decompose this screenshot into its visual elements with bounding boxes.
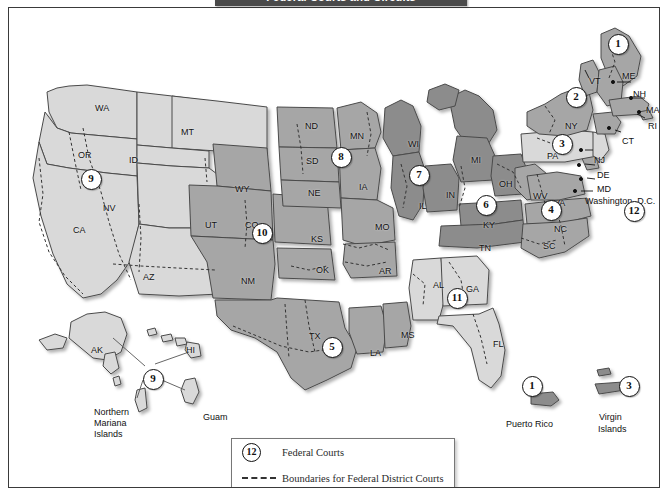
state-label-mi: MI [471, 155, 481, 165]
state-label-hi: HI [186, 345, 195, 355]
circuit-8: 8 [331, 147, 352, 168]
region-alaska [39, 312, 127, 374]
circuit-3: 3 [552, 134, 573, 155]
map-legend: 12 Federal Courts Boundaries for Federal… [231, 438, 455, 488]
label-puerto-rico: Puerto Rico [506, 419, 553, 429]
page-title: Federal Courts and Circuits [215, 0, 467, 6]
legend-circle-icon: 12 [242, 443, 261, 462]
dashed-line-icon [242, 477, 276, 479]
circuit-3-virgin-islands: 3 [619, 376, 640, 397]
state-label-nc: NC [554, 224, 567, 234]
state-label-la: LA [370, 348, 381, 358]
circuit-1: 1 [608, 34, 629, 55]
circuit-12-dc: 12 [624, 201, 645, 222]
state-label-mt: MT [181, 127, 194, 137]
state-label-mo: MO [375, 222, 390, 232]
state-label-ak: AK [91, 345, 103, 355]
circuit-7: 7 [409, 165, 430, 186]
circuit-4: 4 [541, 200, 562, 221]
state-label-nv: NV [103, 203, 116, 213]
state-label-ar: AR [379, 266, 392, 276]
map-frame: 123456789101112913 WAORIDMTNVCAAZUTCOWYN… [8, 7, 660, 488]
state-label-wv: WV [533, 191, 548, 201]
circuit-6: 6 [476, 195, 497, 216]
circuit-2: 2 [566, 87, 587, 108]
state-label-fl: FL [493, 339, 504, 349]
state-label-ms: MS [401, 330, 415, 340]
state-label-sc: SC [543, 241, 556, 251]
state-label-oh: OH [499, 179, 513, 189]
label-virgin: Virgin [599, 412, 622, 422]
state-label-ks: KS [311, 234, 323, 244]
legend-row-federal-courts: 12 Federal Courts [232, 439, 454, 465]
legend-circuit-symbol: 12 [242, 443, 282, 462]
state-label-ma: MA [646, 105, 660, 115]
circuit-9-mainland: 9 [81, 169, 102, 190]
legend-dash-symbol [242, 477, 282, 479]
state-label-de: DE [597, 170, 610, 180]
region-circuit-11 [409, 256, 505, 388]
state-label-md: MD [597, 184, 611, 194]
state-label-ri: RI [648, 121, 657, 131]
state-label-in: IN [446, 190, 455, 200]
state-label-nh: NH [633, 89, 646, 99]
state-label-mn: MN [350, 131, 364, 141]
state-label-id: ID [129, 155, 138, 165]
state-label-ia: IA [359, 182, 368, 192]
state-label-me: ME [622, 71, 636, 81]
state-label-wy: WY [235, 184, 250, 194]
state-label-ky: KY [483, 220, 495, 230]
circuit-1-puerto-rico: 1 [522, 376, 543, 397]
label-northern-mariana-islands: Northern Mariana Islands [94, 407, 156, 440]
state-label-il: IL [419, 201, 427, 211]
state-label-al: AL [433, 280, 444, 290]
state-label-nj: NJ [594, 155, 605, 165]
label-guam: Guam [203, 412, 228, 422]
circuit-10: 10 [252, 223, 273, 244]
legend-federal-courts-label: Federal Courts [282, 447, 344, 458]
state-label-ok: OK [316, 265, 329, 275]
legend-boundaries-label: Boundaries for Federal District Courts [282, 473, 444, 484]
state-label-az: AZ [143, 272, 155, 282]
state-label-wi: WI [408, 139, 419, 149]
label-washington-dc: Washington, D.C. [585, 196, 655, 206]
state-label-ga: GA [466, 284, 479, 294]
state-label-ca: CA [73, 225, 86, 235]
state-label-nd: ND [305, 121, 318, 131]
legend-row-boundaries: Boundaries for Federal District Courts [232, 465, 454, 488]
state-label-ny: NY [565, 121, 578, 131]
state-label-ut: UT [205, 220, 217, 230]
circuit-11: 11 [447, 288, 468, 309]
circuit-5: 5 [322, 337, 343, 358]
state-label-ct: CT [622, 136, 634, 146]
state-label-ne: NE [308, 188, 321, 198]
state-label-wa: WA [95, 103, 109, 113]
state-label-nm: NM [241, 276, 255, 286]
circuit-9-pacific: 9 [143, 369, 164, 390]
state-label-vt: VT [589, 76, 601, 86]
federal-courts-circuits-figure: Federal Courts and Circuits [0, 0, 670, 497]
state-label-tx: TX [309, 331, 321, 341]
state-label-sd: SD [306, 156, 319, 166]
label-virgin-islands: Islands [598, 424, 627, 434]
region-guam [181, 378, 199, 404]
state-label-tn: TN [479, 243, 491, 253]
state-label-or: OR [78, 150, 92, 160]
